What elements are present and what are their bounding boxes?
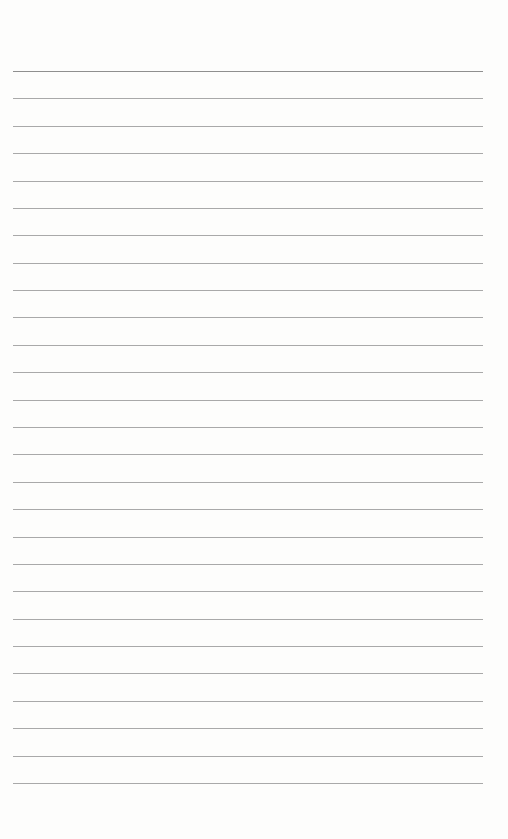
ruled-line <box>13 235 483 236</box>
ruled-line <box>13 372 483 373</box>
ruled-line <box>13 646 483 647</box>
ruled-line <box>13 153 483 154</box>
ruled-line <box>13 181 483 182</box>
ruled-line <box>13 591 483 592</box>
ruled-line <box>13 537 483 538</box>
ruled-line <box>13 454 483 455</box>
ruled-line <box>13 71 483 72</box>
ruled-line <box>13 701 483 702</box>
lined-paper-page <box>0 0 508 839</box>
ruled-line <box>13 400 483 401</box>
ruled-line <box>13 98 483 99</box>
ruled-line <box>13 756 483 757</box>
ruled-line <box>13 564 483 565</box>
ruled-line <box>13 619 483 620</box>
ruled-line <box>13 783 483 784</box>
ruled-line <box>13 263 483 264</box>
ruled-line <box>13 208 483 209</box>
ruled-line <box>13 509 483 510</box>
ruled-line <box>13 126 483 127</box>
ruled-line <box>13 345 483 346</box>
ruled-line <box>13 673 483 674</box>
ruled-line <box>13 317 483 318</box>
ruled-line <box>13 728 483 729</box>
ruled-line <box>13 482 483 483</box>
ruled-line <box>13 290 483 291</box>
ruled-line <box>13 427 483 428</box>
